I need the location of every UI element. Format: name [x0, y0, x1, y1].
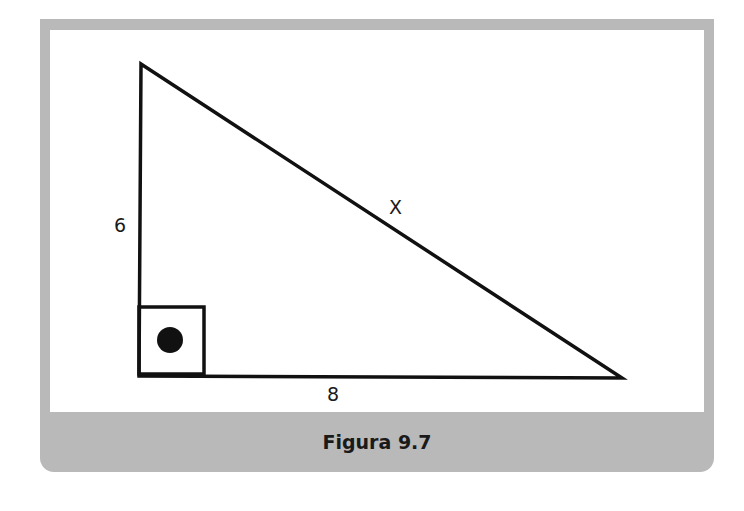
figure-caption: Figura 9.7 — [40, 412, 714, 472]
right-angle-dot — [157, 327, 183, 353]
label-horizontal-leg: 8 — [327, 383, 339, 405]
label-hypotenuse: X — [389, 196, 402, 218]
label-vertical-leg: 6 — [114, 214, 126, 236]
right-triangle — [139, 64, 622, 378]
